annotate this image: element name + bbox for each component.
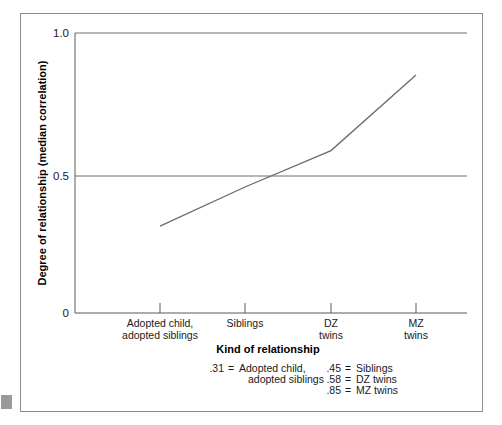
data-series-line xyxy=(160,75,416,226)
x-axis-title: Kind of relationship xyxy=(216,343,320,355)
y-axis-title: Degree of relationship (median correlati… xyxy=(36,60,48,285)
x-tick-label-0-line1: Adopted child, xyxy=(127,317,194,329)
figure-container: 1.0 0.5 0 Degree of relationship (median… xyxy=(0,0,502,425)
legend-right-label-2: MZ twins xyxy=(356,384,398,396)
legend-left-value-0: .31 xyxy=(209,362,224,374)
y-tick-label-0: 0 xyxy=(63,307,69,319)
x-tick-label-3-line2: twins xyxy=(404,329,428,341)
x-tick-label-3-line1: MZ xyxy=(408,317,424,329)
x-tick-label-2-line2: twins xyxy=(319,329,343,341)
legend-left-label-0-line2: adopted siblings xyxy=(248,373,324,385)
y-tick-label-0.5: 0.5 xyxy=(53,170,69,182)
legend-left-equals-0: = xyxy=(228,362,234,374)
legend-right-value-2: .85 xyxy=(326,384,341,396)
y-tick-label-1.0: 1.0 xyxy=(53,27,69,39)
line-chart: 1.0 0.5 0 Degree of relationship (median… xyxy=(0,0,502,425)
x-tick-label-1-line1: Siblings xyxy=(227,317,264,329)
x-tick-label-0-line2: adopted siblings xyxy=(122,329,198,341)
legend-right-equals-2: = xyxy=(345,384,351,396)
x-tick-label-2-line1: DZ xyxy=(324,317,339,329)
